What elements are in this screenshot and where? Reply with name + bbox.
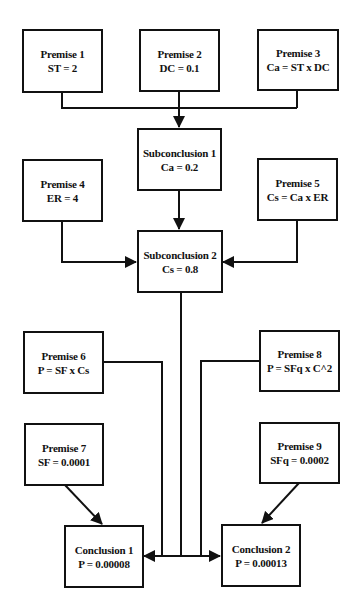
premise-8-expr: P = SFq x C^2 bbox=[267, 361, 332, 375]
premise-7-title: Premise 7 bbox=[42, 441, 86, 455]
premise-6-title: Premise 6 bbox=[41, 349, 85, 363]
premise-1-box: Premise 1 ST = 2 bbox=[22, 29, 103, 93]
premise-9-box: Premise 9 SFq = 0.0002 bbox=[259, 422, 340, 484]
premise-8-box: Premise 8 P = SFq x C^2 bbox=[259, 330, 340, 392]
conclusion-2-title: Conclusion 2 bbox=[232, 542, 290, 556]
premise-8-title: Premise 8 bbox=[277, 347, 321, 361]
premise-4-box: Premise 4 ER = 4 bbox=[22, 159, 103, 222]
premise-3-expr: Ca = ST x DC bbox=[267, 60, 330, 74]
premise-7-box: Premise 7 SF = 0.0001 bbox=[24, 423, 104, 486]
subconclusion-1-expr: Ca = 0.2 bbox=[161, 160, 198, 174]
premise-4-expr: ER = 4 bbox=[47, 191, 78, 205]
premise-3-title: Premise 3 bbox=[276, 46, 320, 60]
premise-7-expr: SF = 0.0001 bbox=[38, 455, 90, 469]
premise-6-expr: P = SF x Cs bbox=[38, 363, 89, 377]
connector-premise7-to-conclusion1 bbox=[65, 485, 102, 524]
conclusion-2-box: Conclusion 2 P = 0.00013 bbox=[221, 524, 301, 587]
subconclusion-1-title: Subconclusion 1 bbox=[143, 146, 216, 160]
premise-3-box: Premise 3 Ca = ST x DC bbox=[257, 29, 339, 91]
premise-5-box: Premise 5 Cs = Ca x ER bbox=[257, 158, 338, 221]
subconclusion-2-expr: Cs = 0.8 bbox=[162, 262, 198, 276]
premise-5-title: Premise 5 bbox=[275, 176, 319, 190]
subconclusion-2-title: Subconclusion 2 bbox=[143, 248, 216, 262]
conclusion-1-expr: P = 0.00008 bbox=[78, 557, 129, 571]
conclusion-1-box: Conclusion 1 P = 0.00008 bbox=[64, 525, 144, 588]
conclusion-1-title: Conclusion 1 bbox=[75, 543, 133, 557]
premise-9-title: Premise 9 bbox=[277, 439, 321, 453]
premise-9-expr: SFq = 0.0002 bbox=[270, 453, 329, 467]
subconclusion-1-box: Subconclusion 1 Ca = 0.2 bbox=[137, 128, 222, 191]
premise-1-expr: ST = 2 bbox=[48, 61, 77, 75]
connector-premise9-to-conclusion2 bbox=[262, 483, 299, 523]
connector-premise4-to-sub2 bbox=[62, 221, 136, 262]
argument-diagram: Premise 1 ST = 2 Premise 2 DC = 0.1 Prem… bbox=[0, 0, 358, 614]
premise-5-expr: Cs = Ca x ER bbox=[267, 190, 328, 204]
premise-1-title: Premise 1 bbox=[40, 47, 84, 61]
premise-4-title: Premise 4 bbox=[40, 177, 84, 191]
premise-2-box: Premise 2 DC = 0.1 bbox=[139, 29, 220, 92]
subconclusion-2-box: Subconclusion 2 Cs = 0.8 bbox=[137, 230, 223, 293]
conclusion-2-expr: P = 0.00013 bbox=[235, 556, 286, 570]
premise-6-box: Premise 6 P = SF x Cs bbox=[23, 331, 104, 394]
premise-2-expr: DC = 0.1 bbox=[160, 61, 200, 75]
connector-premise5-to-sub2 bbox=[223, 220, 297, 262]
premise-2-title: Premise 2 bbox=[157, 47, 201, 61]
